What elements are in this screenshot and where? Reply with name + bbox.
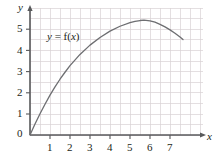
curve-annotation: y = f(x): [47, 30, 79, 42]
chart-figure: 0 1 2 3 4 5 1 2 3 4 5 6 7 y x y = f(x): [0, 0, 217, 159]
x-tick-label-5: 5: [127, 142, 133, 153]
y-axis: [27, 5, 32, 135]
y-tick-label-3: 3: [17, 66, 23, 77]
plot-area: [0, 0, 217, 159]
x-tick-label-2: 2: [67, 142, 73, 153]
x-axis-label: x: [207, 131, 212, 142]
x-tick-label-7: 7: [167, 142, 173, 153]
x-axis: [30, 132, 206, 137]
y-tick-label-5: 5: [17, 23, 23, 34]
x-tick-label-4: 4: [107, 142, 113, 153]
y-tick-label-0: 0: [17, 128, 23, 139]
y-tick-label-2: 2: [17, 87, 23, 98]
x-tick-label-3: 3: [87, 142, 93, 153]
y-tick-label-1: 1: [17, 108, 23, 119]
x-tick-label-6: 6: [147, 142, 153, 153]
annotation-close: ): [76, 30, 80, 42]
x-tick-label-1: 1: [47, 142, 53, 153]
y-axis-label: y: [18, 2, 23, 13]
annotation-equals: = f(: [52, 30, 71, 42]
grid-horizontal-lines: [30, 8, 203, 135]
y-tick-label-4: 4: [17, 45, 23, 56]
